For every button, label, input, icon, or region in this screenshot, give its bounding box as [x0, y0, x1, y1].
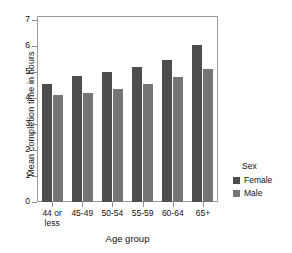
bar: [53, 95, 63, 202]
bar: [113, 89, 123, 202]
x-tick-mark: [82, 202, 83, 207]
y-tick-label: 6: [16, 40, 30, 50]
y-tick-label: 0: [16, 196, 30, 206]
bar: [72, 76, 82, 202]
x-tick-mark: [173, 202, 174, 207]
legend: Sex FemaleMale: [233, 161, 291, 201]
legend-label: Male: [244, 188, 262, 198]
bar: [83, 93, 93, 202]
bar: [102, 72, 112, 202]
y-tick-label: 3: [16, 118, 30, 128]
legend-label: Female: [244, 175, 272, 185]
y-tick-label: 5: [16, 66, 30, 76]
bar: [132, 67, 142, 202]
x-tick-mark: [203, 202, 204, 207]
legend-title: Sex: [242, 161, 291, 171]
y-tick-label: 2: [16, 144, 30, 154]
x-tick-mark: [112, 202, 113, 207]
y-tick-label: 1: [16, 170, 30, 180]
legend-item: Male: [233, 188, 291, 198]
y-tick-mark: [32, 202, 37, 203]
bars-layer: [37, 16, 218, 202]
legend-items: FemaleMale: [233, 175, 291, 198]
y-tick-label: 4: [16, 92, 30, 102]
legend-swatch: [233, 190, 240, 197]
bar: [173, 77, 183, 202]
bar: [192, 45, 202, 202]
legend-item: Female: [233, 175, 291, 185]
legend-swatch: [233, 177, 240, 184]
x-tick-mark: [52, 202, 53, 207]
x-tick-label: 65+: [180, 209, 226, 219]
bar: [162, 60, 172, 202]
x-tick-mark: [143, 202, 144, 207]
x-axis-title: Age group: [37, 233, 218, 244]
y-tick-label: 7: [16, 14, 30, 24]
bar: [143, 84, 153, 202]
bar: [42, 84, 52, 202]
bar-chart: Mean completion time in hours 01234567 4…: [0, 0, 292, 253]
bar: [203, 69, 213, 202]
